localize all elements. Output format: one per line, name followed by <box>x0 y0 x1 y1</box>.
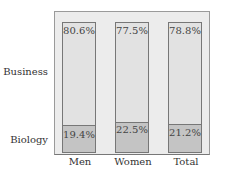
bar-men-biology-label: 19.4% <box>63 129 95 140</box>
row-label-biology: Biology <box>0 134 48 145</box>
bar-total: 21.2% 78.8% <box>168 22 202 153</box>
bar-total-biology-label: 21.2% <box>169 127 201 138</box>
row-label-business: Business <box>0 66 48 77</box>
bar-women-business-label: 77.5% <box>116 25 148 36</box>
bar-total-biology: 21.2% <box>169 124 201 152</box>
x-label-women: Women <box>113 156 153 167</box>
chart-plot-area: 19.4% 80.6% 22.5% 77.5% 21.2% 78.8% <box>54 11 210 155</box>
bar-men-business-label: 80.6% <box>63 25 95 36</box>
bar-women-biology-label: 22.5% <box>116 124 148 135</box>
bar-men: 19.4% 80.6% <box>62 22 96 153</box>
x-label-men: Men <box>60 156 100 167</box>
bar-total-business-label: 78.8% <box>169 25 201 36</box>
bar-women-biology: 22.5% <box>116 122 148 152</box>
x-label-total: Total <box>166 156 206 167</box>
bar-men-biology: 19.4% <box>63 125 95 152</box>
bar-women: 22.5% 77.5% <box>115 22 149 153</box>
